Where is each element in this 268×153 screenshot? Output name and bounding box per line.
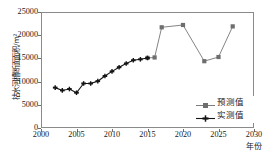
data-point (231, 24, 235, 28)
legend-label-measured: 实测值 (215, 111, 244, 120)
legend-item-predicted: 预测值 (196, 96, 256, 109)
legend-item-measured: 实测值 (196, 109, 256, 122)
data-point (160, 25, 164, 29)
chart-legend: 预测值 实测值 (196, 96, 256, 123)
legend-swatch-square-icon (196, 97, 215, 108)
legend-swatch-plus-icon (196, 110, 215, 121)
chart-root: 枯水河槽断面面积/m² 年份 0500010000150002000025000… (0, 0, 268, 153)
data-point (153, 55, 157, 59)
series-square (145, 23, 234, 63)
legend-label-predicted: 预测值 (215, 98, 244, 107)
series-plus (53, 56, 150, 95)
data-point (216, 55, 220, 59)
data-point (181, 23, 185, 27)
series-layer (0, 0, 268, 153)
data-point (202, 59, 206, 63)
